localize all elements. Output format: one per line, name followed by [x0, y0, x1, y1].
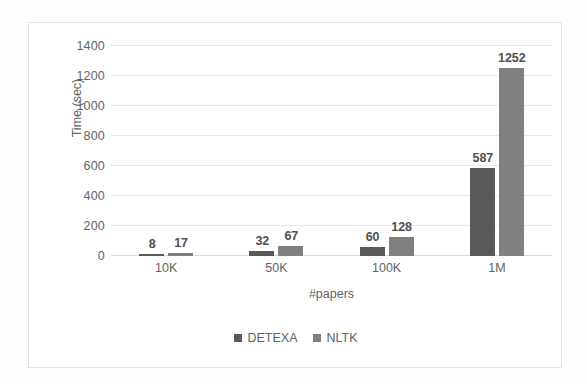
page-background: Time (sec) 0200400600800100012001400 817…: [0, 0, 587, 384]
bar-group-10k: 817: [139, 46, 193, 256]
y-axis-tick-label: 1400: [59, 39, 105, 53]
bar-detexa-1m[interactable]: [470, 168, 495, 256]
bar-group-50k: 3267: [249, 46, 303, 256]
legend-label: NLTK: [326, 331, 357, 345]
y-axis-tick-label: 400: [59, 189, 105, 203]
bar-nltk-10k[interactable]: [168, 253, 193, 256]
x-axis-tick-label-10k: 10K: [121, 261, 211, 275]
bar-nltk-50k[interactable]: [278, 246, 303, 256]
bar-nltk-100k[interactable]: [389, 237, 414, 256]
bar-group-1m: 5871252: [470, 46, 524, 256]
x-axis-title: #papers: [111, 287, 552, 301]
y-axis-tick-label: 800: [59, 129, 105, 143]
y-axis-tick-label: 1200: [59, 69, 105, 83]
y-axis-tick-label: 0: [59, 249, 105, 263]
legend-item-nltk[interactable]: NLTK: [313, 331, 357, 345]
bar-detexa-100k[interactable]: [360, 247, 385, 256]
x-axis-tick-label-50k: 50K: [231, 261, 321, 275]
plot-area: 8173267601285871252: [111, 46, 552, 256]
legend-item-detexa[interactable]: DETEXA: [234, 331, 297, 345]
bar-value-label: 1252: [490, 51, 534, 65]
x-axis-ticks: 10K50K100K1M: [111, 261, 552, 281]
chart-legend: DETEXANLTK: [29, 331, 563, 345]
bar-value-label: 67: [269, 229, 313, 243]
legend-swatch-icon: [234, 334, 242, 342]
x-axis-tick-label-100k: 100K: [342, 261, 432, 275]
legend-label: DETEXA: [247, 331, 297, 345]
chart-container: Time (sec) 0200400600800100012001400 817…: [28, 22, 562, 368]
x-axis-tick-label-1m: 1M: [452, 261, 542, 275]
bar-detexa-10k[interactable]: [139, 254, 164, 256]
bar-nltk-1m[interactable]: [499, 68, 524, 256]
y-axis-tick-label: 1000: [59, 99, 105, 113]
bar-detexa-50k[interactable]: [249, 251, 274, 256]
legend-swatch-icon: [313, 334, 321, 342]
bar-group-100k: 60128: [360, 46, 414, 256]
y-axis-tick-label: 600: [59, 159, 105, 173]
y-axis-tick-label: 200: [59, 219, 105, 233]
bar-value-label: 128: [380, 220, 424, 234]
bar-value-label: 17: [159, 236, 203, 250]
y-axis-ticks: 0200400600800100012001400: [49, 46, 105, 256]
